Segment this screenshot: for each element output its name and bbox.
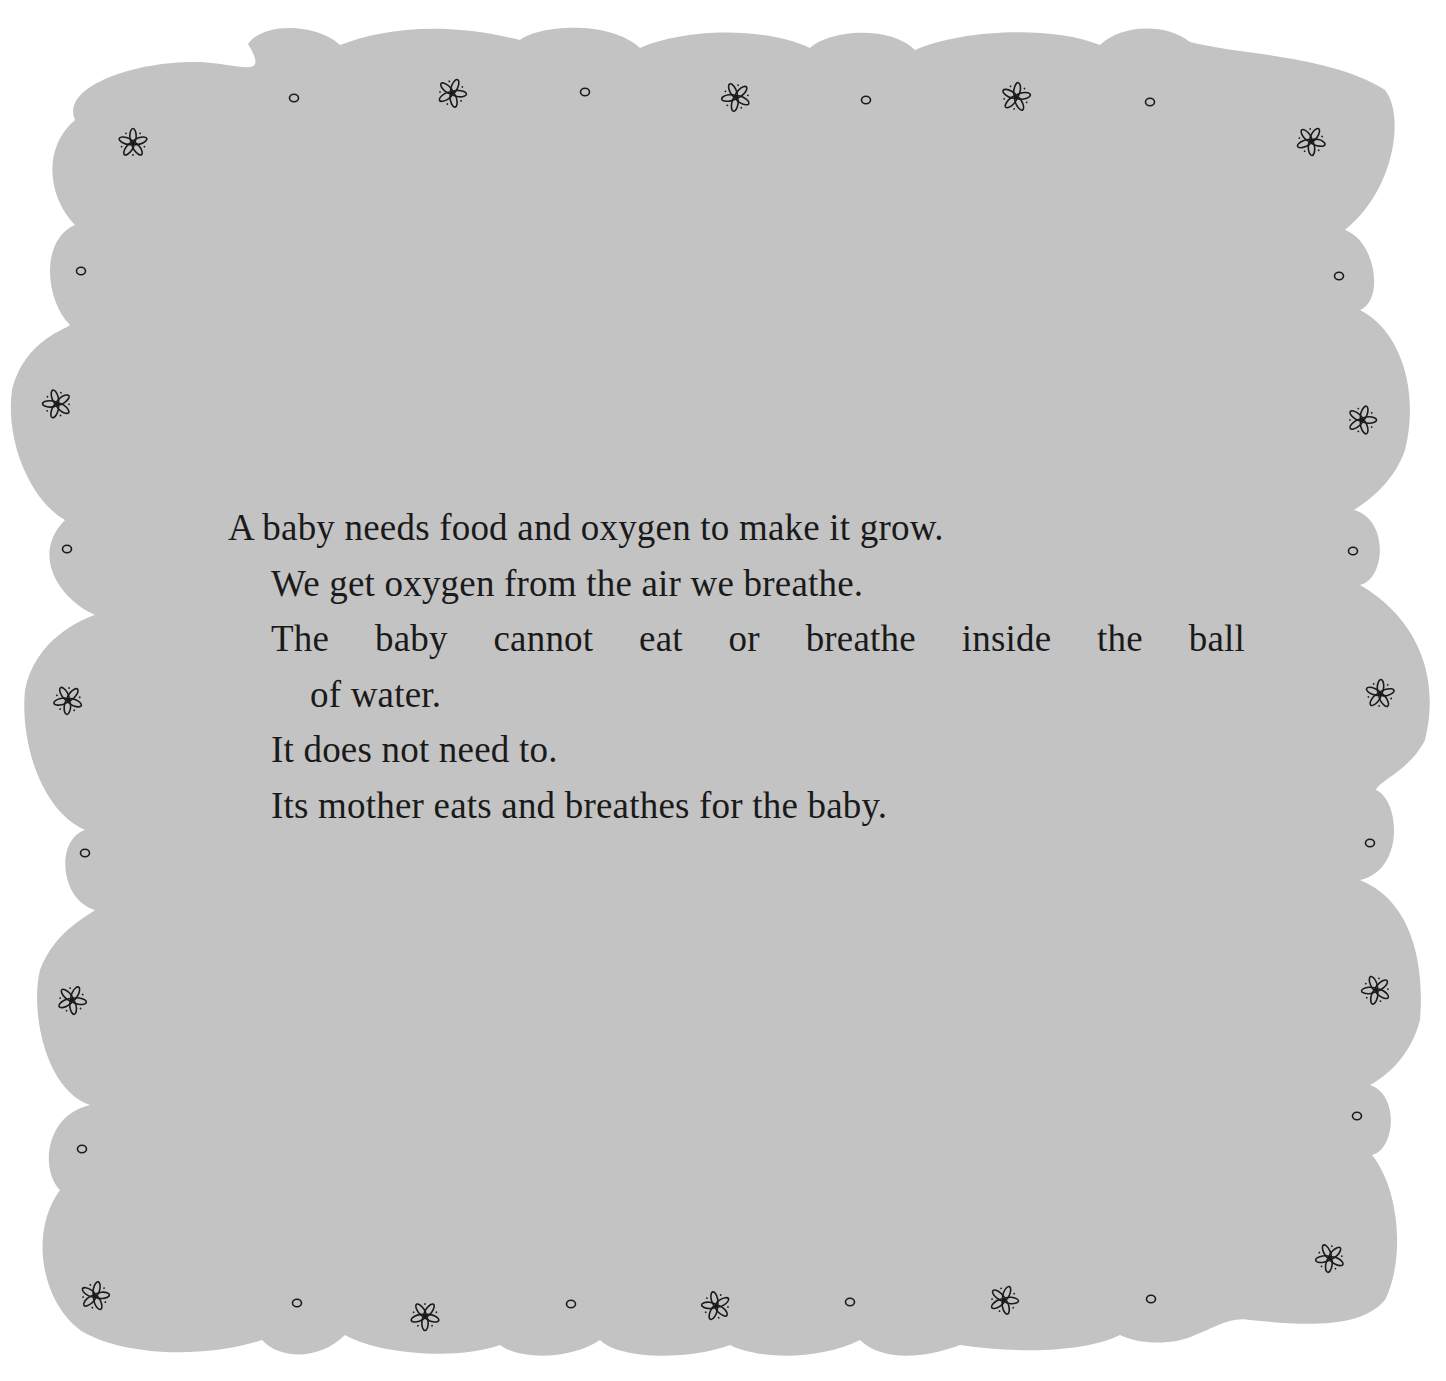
text-line-6: Its mother eats and breathes for the bab… xyxy=(228,778,1258,834)
text-line-5: It does not need to. xyxy=(228,722,1258,778)
text-line-2: We get oxygen from the air we breathe. xyxy=(228,556,1258,612)
text-line-3: The baby cannot eat or breathe inside th… xyxy=(271,611,1245,667)
story-text: A baby needs food and oxygen to make it … xyxy=(228,500,1258,833)
text-line-1: A baby needs food and oxygen to make it … xyxy=(228,500,1258,556)
text-line-4: of water. xyxy=(228,667,1258,723)
